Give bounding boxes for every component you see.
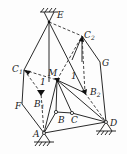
label-b1: B1	[33, 99, 44, 110]
label-b2: B2	[89, 87, 101, 98]
label-c: C	[71, 115, 78, 125]
joint-b1	[37, 90, 45, 96]
angle-mark-1: 1	[71, 71, 77, 81]
label-e: E	[56, 10, 64, 20]
label-c1: C1	[12, 64, 23, 75]
diagram-canvas: E C2 G C1 M 1 1 B1 B2 F B C A D	[0, 0, 127, 154]
label-b: B	[57, 115, 65, 125]
ground-support-e	[40, 8, 58, 22]
joint-markers	[24, 21, 108, 135]
label-c2: C2	[84, 30, 95, 41]
angle-mark-2: 1	[40, 77, 46, 87]
label-f: F	[14, 101, 22, 111]
mechanism-diagram: E C2 G C1 M 1 1 B1 B2 F B C A D	[0, 0, 127, 154]
joint-c1	[24, 70, 31, 75]
label-d: D	[109, 118, 117, 128]
label-m: M	[47, 68, 58, 78]
label-a: A	[32, 129, 40, 139]
label-g: G	[102, 58, 109, 68]
